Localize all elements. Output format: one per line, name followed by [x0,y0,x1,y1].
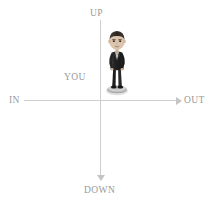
orientation-diagram: UP DOWN IN OUT YOU [0,0,214,206]
you-label: YOU [64,73,86,83]
bobblehead-figure-icon [103,27,131,96]
vertical-axis-line [100,20,101,176]
axis-label-in: IN [9,96,20,106]
down-arrow-icon [97,175,105,181]
axis-label-up: UP [90,9,103,19]
right-arrow-icon [176,97,182,105]
horizontal-axis-line [24,100,178,101]
axis-label-down: DOWN [84,186,115,196]
axis-label-out: OUT [184,96,205,106]
